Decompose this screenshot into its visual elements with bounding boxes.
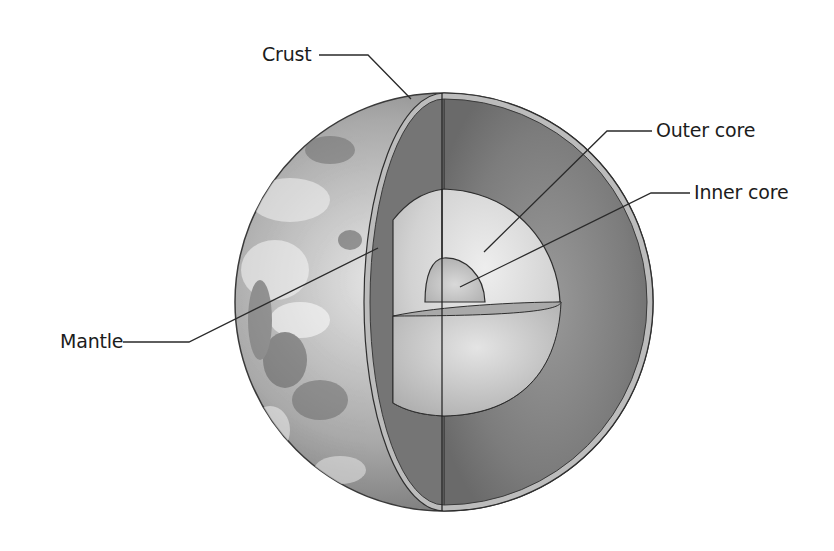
outer-core-label: Outer core bbox=[656, 121, 755, 140]
earth-layers-diagram: Crust Outer core Inner core Mantle bbox=[0, 0, 834, 551]
inner-core-label: Inner core bbox=[694, 183, 788, 202]
mantle-label: Mantle bbox=[60, 332, 123, 351]
crust-leader-line bbox=[319, 55, 411, 99]
crust-label: Crust bbox=[262, 45, 311, 64]
earth-cutaway-illustration bbox=[0, 0, 834, 551]
